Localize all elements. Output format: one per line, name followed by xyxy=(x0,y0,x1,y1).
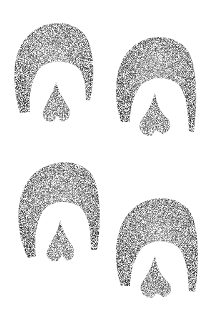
hoofprints-illustration xyxy=(0,0,212,320)
